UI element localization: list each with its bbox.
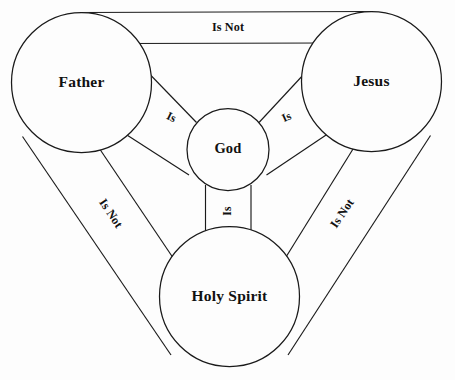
edge-jesus-holy-spirit-outer-line xyxy=(288,136,431,356)
edge-father-holy-spirit xyxy=(23,137,173,356)
edge-label-father-jesus: Is Not xyxy=(212,20,244,34)
trinity-diagram-canvas: Father Jesus Holy Spirit God Is Not Is N… xyxy=(0,0,455,380)
edge-label-jesus-god: Is xyxy=(280,109,294,125)
edge-label-holy-spirit-god: Is xyxy=(221,206,234,216)
node-label-holy-spirit: Holy Spirit xyxy=(192,287,268,304)
edge-father-jesus-inner-line xyxy=(125,43,328,44)
edge-label-father-holy-spirit: Is Not xyxy=(96,196,126,230)
node-label-jesus: Jesus xyxy=(353,72,389,89)
edge-label-father-god: Is xyxy=(164,109,178,125)
edge-jesus-holy-spirit xyxy=(286,136,431,356)
node-label-god: God xyxy=(214,140,241,156)
node-label-father: Father xyxy=(59,73,105,90)
edge-label-jesus-holy-spirit: Is Not xyxy=(327,196,357,230)
trinity-diagram: Father Jesus Holy Spirit God Is Not Is N… xyxy=(0,0,455,380)
edge-father-holy-spirit-outer-line xyxy=(23,137,172,356)
edge-father-jesus-outer-line xyxy=(82,12,372,13)
